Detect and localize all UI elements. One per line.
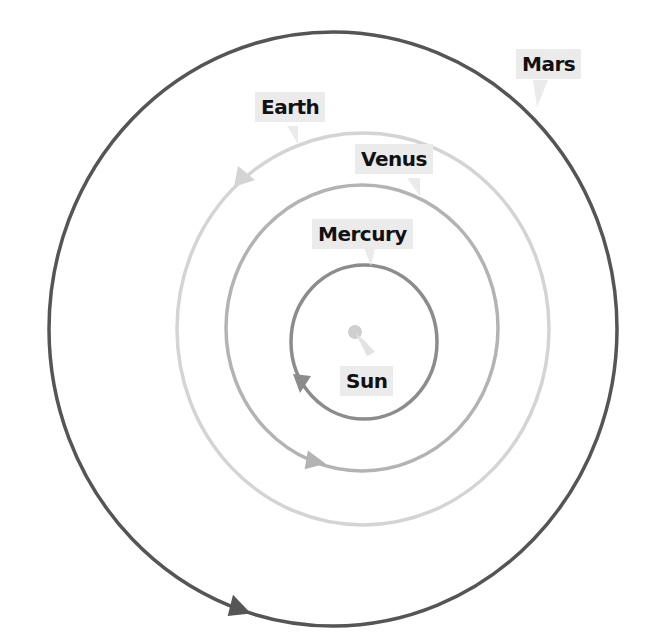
- mercury-label: Mercury: [312, 219, 413, 249]
- sun-label: Sun: [340, 366, 393, 396]
- sun-icon: [348, 325, 362, 339]
- mars-orbit: [49, 32, 617, 626]
- venus-label: Venus: [355, 144, 433, 174]
- earth-orbit: [177, 133, 549, 525]
- earth-direction-arrow-icon: [234, 166, 255, 187]
- sun-label-pointer: [356, 334, 375, 356]
- mars-direction-arrow-icon: [228, 595, 255, 622]
- venus-direction-arrow-icon: [305, 450, 328, 472]
- earth-label-pointer: [287, 126, 298, 144]
- mars-label: Mars: [516, 49, 581, 79]
- earth-label: Earth: [255, 92, 325, 122]
- mars-label-pointer: [533, 80, 548, 107]
